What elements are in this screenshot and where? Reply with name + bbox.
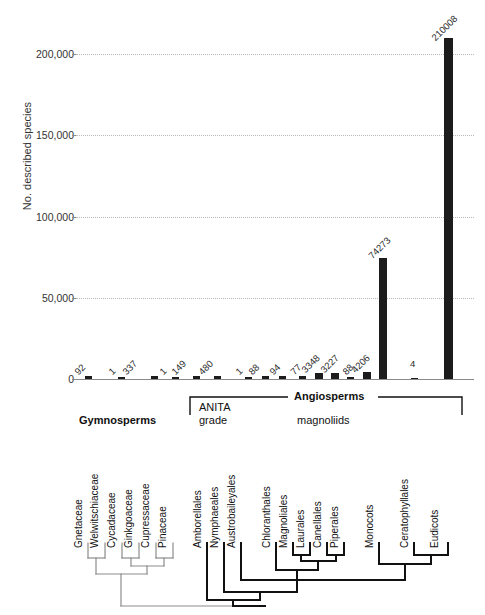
group-label-gymnosperms: Gymnosperms <box>79 414 156 426</box>
group-label-anita-line2: grade <box>199 414 227 426</box>
bar-amborellales[interactable] <box>245 377 252 379</box>
bar-welwitschiaceae[interactable] <box>118 377 125 379</box>
bar-value-amborellales: 1 <box>233 365 245 377</box>
group-brackets <box>0 393 485 433</box>
angiosperm-clade <box>207 543 448 606</box>
bar-value-cupressaceae: 149 <box>169 358 188 377</box>
bar-piperales[interactable] <box>363 372 371 379</box>
bar-cycadaceae[interactable] <box>151 376 158 379</box>
bar-value-laurales: 3227 <box>318 352 341 375</box>
bar-value-welwitschiaceae: 1 <box>106 365 118 377</box>
taxon-label-welwitschiaceae: Welwitschiaceae <box>89 474 100 548</box>
bar-chloranthales[interactable] <box>299 376 306 379</box>
taxon-label-austrobaileyales: Austrobaileyales <box>226 475 237 548</box>
tickmark-50k <box>72 298 76 299</box>
bar-value-austrobaileyales: 94 <box>267 362 282 377</box>
bar-cupressaceae[interactable] <box>193 376 200 379</box>
group-label-angiosperms: Angiosperms <box>294 390 364 402</box>
y-tick-200k: 200,000 <box>8 49 74 60</box>
gridline-100k <box>76 217 474 218</box>
bar-laurales[interactable] <box>331 373 339 379</box>
figure-root: No. described species 0 50,000 100,000 1… <box>0 0 485 615</box>
gymnosperm-clade <box>88 543 265 606</box>
bar-value-ceratophyllales: 4 <box>410 358 415 369</box>
tickmark-100k <box>72 217 76 218</box>
bar-austrobaileyales[interactable] <box>279 376 286 379</box>
gridline-150k <box>76 135 474 136</box>
y-axis-ticks: 0 50,000 100,000 150,000 200,000 <box>0 0 74 400</box>
tickmark-0 <box>72 379 76 380</box>
bar-value-cycadaceae: 337 <box>120 358 139 377</box>
bar-gnetaceae[interactable] <box>85 376 92 379</box>
bar-value-pinaceae: 480 <box>196 358 215 377</box>
cladogram <box>0 538 485 615</box>
gridline-200k <box>76 54 474 55</box>
bar-nymphaeales[interactable] <box>262 376 269 379</box>
bar-monocots[interactable] <box>379 258 387 379</box>
group-label-anita-line1: ANITA <box>199 401 231 413</box>
bar-value-ginkgoaceae: 1 <box>157 365 169 377</box>
bar-value-nymphaeales: 88 <box>246 362 261 377</box>
tickmark-200k <box>72 54 76 55</box>
gridline-50k <box>76 298 474 299</box>
bar-ceratophyllales[interactable] <box>411 378 418 379</box>
group-label-magnoliids: magnoliids <box>297 414 350 426</box>
bar-magnoliales[interactable] <box>315 373 323 379</box>
y-tick-0: 0 <box>8 374 74 385</box>
y-tick-150k: 150,000 <box>8 130 74 141</box>
y-tick-50k: 50,000 <box>8 293 74 304</box>
x-axis-line <box>76 379 474 380</box>
bar-value-gnetaceae: 92 <box>72 362 87 377</box>
y-tick-100k: 100,000 <box>8 212 74 223</box>
bar-value-magnoliales: 3348 <box>299 352 322 375</box>
bar-canellales[interactable] <box>347 377 354 379</box>
bar-eudicots[interactable] <box>444 38 453 379</box>
tickmark-150k <box>72 135 76 136</box>
bar-ginkgoaceae[interactable] <box>172 377 179 379</box>
angiosperms-bracket-right <box>378 397 462 415</box>
bar-pinaceae[interactable] <box>214 376 221 379</box>
